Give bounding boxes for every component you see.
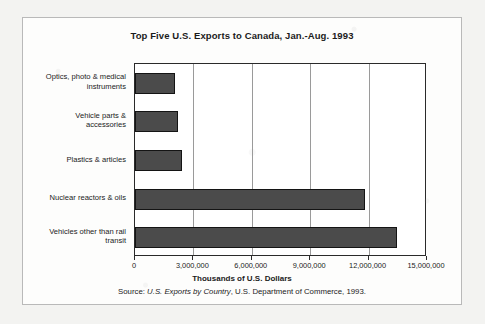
- bar: [135, 150, 182, 171]
- bar-row: [135, 103, 425, 142]
- chart-figure-card: Top Five U.S. Exports to Canada, Jan.-Au…: [22, 17, 462, 305]
- y-axis-category-label: Vehicle parts &accessories: [25, 111, 126, 130]
- bar-row: [135, 64, 425, 103]
- x-tick-label: 3,000,000: [176, 261, 209, 270]
- bar: [135, 189, 365, 210]
- y-axis-category-labels: Optics, photo & medicalinstrumentsVehicl…: [29, 63, 130, 256]
- x-tick-label: 12,000,000: [349, 261, 386, 270]
- x-tick-mark: [426, 256, 427, 260]
- x-tick-mark: [192, 256, 193, 260]
- bar: [135, 227, 397, 248]
- y-axis-category-label: Plastics & articles: [25, 155, 126, 165]
- x-axis-title: Thousands of U.S. Dollars: [23, 274, 461, 283]
- bar: [135, 73, 175, 94]
- x-axis-tick-labels: 03,000,0006,000,0009,000,00012,000,00015…: [134, 261, 426, 273]
- x-tick-label: 15,000,000: [408, 261, 445, 270]
- y-axis-category-label: Vehicles other than railtransit: [25, 227, 126, 246]
- source-prefix: Source:: [118, 287, 147, 296]
- source-note: Source: U.S. Exports by Country, U.S. De…: [23, 287, 461, 296]
- bar-row: [135, 180, 425, 219]
- chart-title: Top Five U.S. Exports to Canada, Jan.-Au…: [23, 30, 461, 41]
- x-tick-label: 6,000,000: [234, 261, 267, 270]
- bar-series: [135, 64, 425, 255]
- x-tick-mark: [368, 256, 369, 260]
- y-axis-category-label: Nuclear reactors & oils: [25, 193, 126, 203]
- source-publication: U.S. Exports by Country: [147, 287, 231, 296]
- source-suffix: , U.S. Department of Commerce, 1993.: [231, 287, 366, 296]
- x-tick-mark: [251, 256, 252, 260]
- plot-area: [134, 63, 426, 256]
- bar-row: [135, 141, 425, 180]
- bar-row: [135, 218, 425, 257]
- y-axis-category-label: Optics, photo & medicalinstruments: [25, 73, 126, 92]
- x-tick-mark: [309, 256, 310, 260]
- bar: [135, 111, 178, 132]
- x-tick-label: 9,000,000: [293, 261, 326, 270]
- x-tick-mark: [134, 256, 135, 260]
- x-tick-label: 0: [132, 261, 136, 270]
